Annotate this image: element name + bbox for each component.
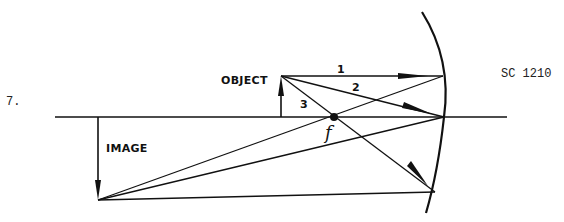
ray-1 — [98, 73, 443, 200]
ray-diagram: 7. SC 1210 OBJECT IMAGE 1 2 3 f — [0, 0, 564, 222]
image-arrow — [95, 117, 101, 200]
ray-1-label: 1 — [337, 63, 345, 76]
ray-3-label: 3 — [300, 98, 308, 111]
object-arrow — [278, 76, 284, 117]
problem-number: 7. — [6, 95, 20, 109]
image-label: IMAGE — [106, 142, 148, 155]
problem-code: SC 1210 — [501, 67, 551, 81]
focal-point-dot — [330, 113, 338, 121]
focal-point-label: f — [323, 122, 335, 143]
ray-2-label: 2 — [352, 81, 360, 94]
object-label: OBJECT — [221, 74, 268, 87]
